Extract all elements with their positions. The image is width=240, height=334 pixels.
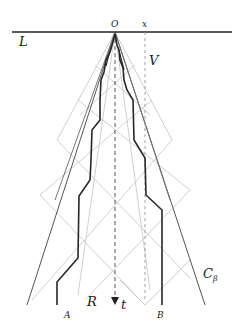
label-A: A xyxy=(63,310,71,320)
cone-diagram: O x L V t R A B Cβ xyxy=(0,0,240,334)
label-x: x xyxy=(142,19,147,29)
label-B: B xyxy=(156,310,164,320)
cone-left-inner xyxy=(55,32,115,200)
label-t: t xyxy=(121,297,127,312)
label-O: O xyxy=(111,19,119,29)
label-L: L xyxy=(18,34,28,49)
cone-left-outer xyxy=(27,32,115,305)
label-R: R xyxy=(86,294,97,309)
cone-right-inner xyxy=(115,32,170,200)
t-axis-arrow-icon xyxy=(111,297,119,305)
cone-lines xyxy=(27,32,205,305)
path-B xyxy=(115,34,162,305)
label-C-beta: Cβ xyxy=(203,266,218,283)
light-lattice xyxy=(32,32,190,305)
diagram-svg: O x L V t R A B Cβ xyxy=(0,0,240,334)
label-V: V xyxy=(149,53,160,68)
